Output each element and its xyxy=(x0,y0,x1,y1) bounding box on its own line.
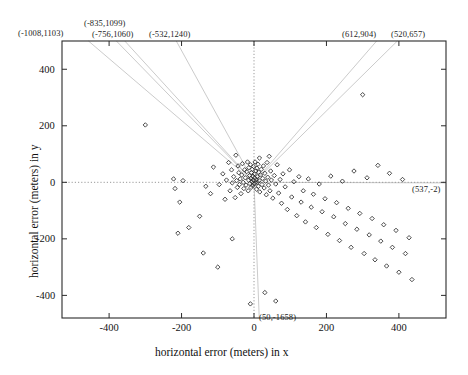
scatter-plot-canvas xyxy=(0,0,468,375)
annotation-neg835-1099: (-835,1099) xyxy=(84,18,125,28)
y-axis-title: horizontal error (meters) in y xyxy=(28,145,40,278)
annotation-520-657: (520,657) xyxy=(391,29,425,39)
y-tick-label: 0 xyxy=(50,177,55,188)
annotation-neg532-1240: (-532,1240) xyxy=(149,29,190,39)
x-tick-label: 200 xyxy=(318,322,334,333)
annotation-neg1008-1103: (-1008,1103) xyxy=(18,28,64,38)
x-tick-label: 400 xyxy=(391,322,407,333)
annotation-612-904: (612,904) xyxy=(342,29,376,39)
data-points xyxy=(143,93,414,307)
figure: (-1008,1103)(-835,1099)(-756,1060)(-532,… xyxy=(0,0,468,375)
x-axis-title: horizontal error (meters) in x xyxy=(155,346,288,358)
annotation-neg756-1060: (-756,1060) xyxy=(92,29,133,39)
annotation-50-neg1658: (50,-1658) xyxy=(259,312,296,322)
x-tick-label: -200 xyxy=(172,322,191,333)
x-tick-label: -400 xyxy=(100,322,119,333)
y-tick-label: -400 xyxy=(36,290,55,301)
x-tick-label: 0 xyxy=(252,322,257,333)
y-tick-label: 200 xyxy=(39,120,55,131)
y-tick-label: 400 xyxy=(39,64,55,75)
annotation-537-neg2: (537,-2) xyxy=(412,184,440,194)
